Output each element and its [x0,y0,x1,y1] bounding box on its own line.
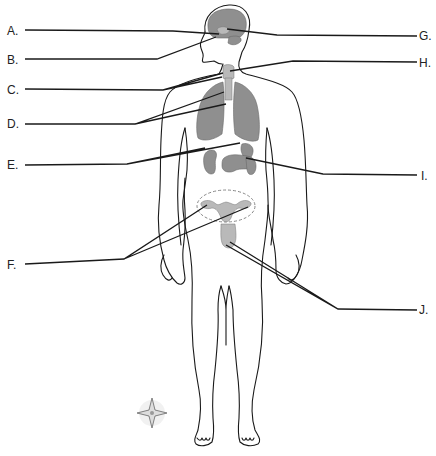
label-j: J. [419,304,428,316]
label-e: E. [7,159,18,171]
toes-left [197,438,210,440]
label-b: B. [7,54,18,66]
trachea [225,78,232,100]
label-g: G. [419,30,432,42]
label-h: H. [419,57,431,69]
compass-star-icon [137,398,167,428]
toes-right [242,438,254,440]
lung-left [197,82,224,140]
hand-right [288,255,299,280]
thyroid-gland [223,65,234,80]
ovary-uterus [201,200,251,221]
label-i: I. [421,170,428,182]
crotch-line [221,286,229,345]
label-d: D. [7,118,19,130]
cerebellum [228,36,241,45]
lung-right [234,82,260,141]
kidney-left [204,150,217,174]
label-c: C. [7,84,19,96]
head-outline [200,5,307,284]
torso-inner-left [183,128,221,446]
label-f: F. [7,259,16,271]
torso-inner-right [229,128,268,446]
endocrine-diagram [0,0,436,456]
label-a: A. [7,25,18,37]
